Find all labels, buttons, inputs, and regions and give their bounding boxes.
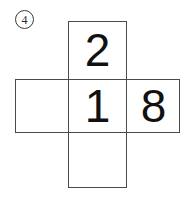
net-face-top: 2 <box>68 21 127 79</box>
net-face-bottom <box>68 133 127 188</box>
net-face-middle-right-value: 8 <box>141 83 167 129</box>
net-face-middle-center-value: 1 <box>85 83 111 129</box>
item-number-badge: 4 <box>15 10 34 29</box>
item-number-text: 4 <box>22 14 28 26</box>
net-face-middle-left <box>15 79 68 133</box>
figure-canvas: 4 2 1 8 <box>0 0 196 197</box>
net-face-top-value: 2 <box>85 27 111 73</box>
net-face-middle-center: 1 <box>68 79 127 133</box>
net-face-middle-right: 8 <box>127 79 180 133</box>
